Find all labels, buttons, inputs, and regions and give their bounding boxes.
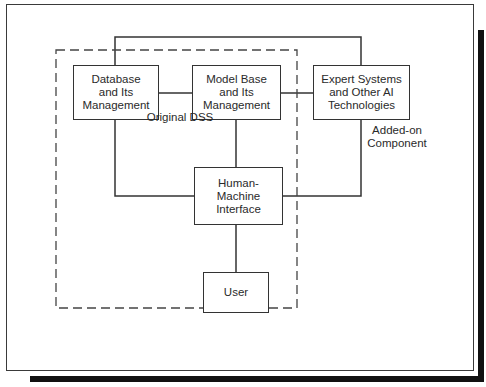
added-on-component-label: Added-on Component xyxy=(364,124,430,150)
node-user: User xyxy=(203,272,269,313)
edge-expert-hmi xyxy=(282,119,361,196)
node-user-label: User xyxy=(224,286,248,299)
edge-database-hmi xyxy=(115,119,194,196)
edge-database-expert xyxy=(115,37,361,65)
node-database-label: Database and Its Management xyxy=(82,73,149,112)
node-expert-systems: Expert Systems and Other AI Technologies xyxy=(313,65,410,120)
node-model-base-label: Model Base and Its Management xyxy=(203,73,270,112)
node-hmi-label: Human- Machine Interface xyxy=(216,177,261,216)
node-expert-systems-label: Expert Systems and Other AI Technologies xyxy=(321,73,402,112)
original-dss-label: Original DSS xyxy=(130,111,230,124)
node-human-machine-interface: Human- Machine Interface xyxy=(194,167,283,225)
